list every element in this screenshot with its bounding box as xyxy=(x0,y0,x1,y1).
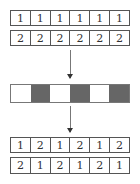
cell: 2 xyxy=(11,31,31,45)
cell: 1 xyxy=(31,158,51,173)
cell: 1 xyxy=(70,158,90,173)
down-arrow-icon xyxy=(70,50,71,78)
cell: 1 xyxy=(51,138,71,152)
cell: 1 xyxy=(90,138,110,152)
cell: 2 xyxy=(51,31,71,45)
down-arrow-icon xyxy=(70,106,71,132)
mask-segment xyxy=(90,85,110,102)
cell: 2 xyxy=(70,31,90,45)
cell: 2 xyxy=(110,31,129,45)
cell: 2 xyxy=(51,158,71,173)
cell: 2 xyxy=(11,158,31,173)
output-row-1: 1 2 1 2 1 2 xyxy=(10,137,130,153)
cell: 2 xyxy=(31,138,51,152)
output-row-2: 2 1 2 1 2 1 xyxy=(10,157,130,174)
input-row-2: 2 2 2 2 2 2 xyxy=(10,30,130,46)
crossover-mask xyxy=(10,84,130,103)
input-row-1: 1 1 1 1 1 1 xyxy=(10,10,130,26)
mask-segment xyxy=(109,85,129,102)
cell: 1 xyxy=(11,138,31,152)
cell: 1 xyxy=(31,11,51,25)
cell: 1 xyxy=(70,11,90,25)
cell: 2 xyxy=(90,31,110,45)
mask-segment xyxy=(11,85,31,102)
cell: 1 xyxy=(110,11,129,25)
cell: 2 xyxy=(110,138,129,152)
cell: 1 xyxy=(11,11,31,25)
cell: 1 xyxy=(110,158,129,173)
cell: 2 xyxy=(31,31,51,45)
cell: 2 xyxy=(90,158,110,173)
cell: 2 xyxy=(70,138,90,152)
mask-segment xyxy=(31,85,51,102)
mask-segment xyxy=(50,85,70,102)
cell: 1 xyxy=(51,11,71,25)
cell: 1 xyxy=(90,11,110,25)
mask-segment xyxy=(70,85,90,102)
